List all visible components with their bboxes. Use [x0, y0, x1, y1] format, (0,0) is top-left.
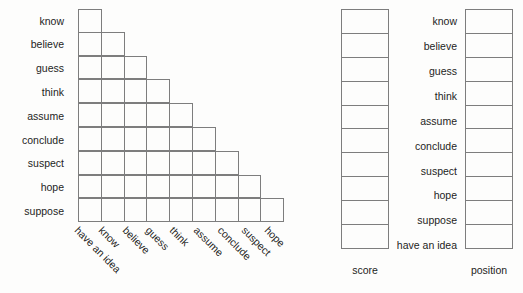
- matrix-cell[interactable]: [124, 175, 148, 199]
- word-list-item: think: [389, 84, 461, 109]
- matrix-row-label: think: [0, 80, 70, 104]
- word-list-item: hope: [389, 183, 461, 208]
- word-list-item: assume: [389, 109, 461, 134]
- matrix-cell[interactable]: [101, 127, 125, 151]
- matrix-row: [78, 199, 284, 223]
- matrix-row: [78, 9, 284, 33]
- word-list-item: believe: [389, 34, 461, 59]
- matrix-cell[interactable]: [192, 151, 216, 175]
- matrix-cell[interactable]: [192, 175, 216, 199]
- score-column-caption: score: [341, 264, 389, 276]
- matrix-cell[interactable]: [101, 103, 125, 127]
- matrix-cell[interactable]: [169, 127, 193, 151]
- matrix-cell[interactable]: [78, 127, 102, 151]
- position-column-caption: position: [465, 264, 513, 276]
- position-cell[interactable]: [465, 81, 513, 106]
- matrix-cell[interactable]: [215, 175, 239, 199]
- score-cell[interactable]: [341, 9, 389, 34]
- matrix-row: [78, 33, 284, 57]
- score-cell[interactable]: [341, 224, 389, 249]
- matrix-cell[interactable]: [238, 198, 262, 222]
- matrix-cell[interactable]: [101, 151, 125, 175]
- matrix-cell[interactable]: [124, 56, 148, 80]
- word-list-column: know believe guess think assume conclude…: [389, 9, 461, 258]
- position-cell[interactable]: [465, 224, 513, 249]
- position-cell[interactable]: [465, 152, 513, 177]
- matrix-cell[interactable]: [146, 79, 170, 103]
- matrix-cell[interactable]: [101, 198, 125, 222]
- matrix-cell[interactable]: [146, 151, 170, 175]
- score-cell[interactable]: [341, 152, 389, 177]
- matrix-cell[interactable]: [238, 175, 262, 199]
- matrix-cell[interactable]: [78, 175, 102, 199]
- position-cell[interactable]: [465, 9, 513, 34]
- matrix-cell[interactable]: [192, 198, 216, 222]
- matrix-cell[interactable]: [169, 175, 193, 199]
- matrix-cell[interactable]: [215, 151, 239, 175]
- score-cell[interactable]: [341, 200, 389, 225]
- matrix-row-label: guess: [0, 57, 70, 81]
- matrix-row: [78, 152, 284, 176]
- matrix-column-label: think: [168, 224, 192, 248]
- triangular-matrix-panel: know believe guess think assume conclude…: [0, 0, 330, 293]
- matrix-row: [78, 57, 284, 81]
- matrix-cell[interactable]: [124, 103, 148, 127]
- matrix-cell[interactable]: [78, 32, 102, 56]
- figure-canvas: know believe guess think assume conclude…: [0, 0, 523, 293]
- matrix-column-label-axis: have an ideaknowbelieveguessthinkassumec…: [78, 224, 328, 293]
- matrix-row: [78, 80, 284, 104]
- matrix-cell[interactable]: [192, 127, 216, 151]
- score-position-panel: know believe guess think assume conclude…: [330, 0, 523, 293]
- position-cell[interactable]: [465, 200, 513, 225]
- matrix-row-label: know: [0, 9, 70, 33]
- matrix-cell[interactable]: [146, 198, 170, 222]
- matrix-row-label: hope: [0, 176, 70, 200]
- position-cell[interactable]: [465, 57, 513, 82]
- matrix-cell[interactable]: [101, 79, 125, 103]
- matrix-cell[interactable]: [78, 198, 102, 222]
- matrix-cell[interactable]: [169, 103, 193, 127]
- position-column-grid: [465, 9, 513, 249]
- matrix-row: [78, 128, 284, 152]
- matrix-cell[interactable]: [101, 32, 125, 56]
- matrix-cell[interactable]: [78, 56, 102, 80]
- score-cell[interactable]: [341, 33, 389, 58]
- matrix-cell[interactable]: [146, 103, 170, 127]
- matrix-row-label: conclude: [0, 128, 70, 152]
- score-cell[interactable]: [341, 128, 389, 153]
- matrix-cell[interactable]: [260, 198, 284, 222]
- score-column-grid: [341, 9, 389, 249]
- score-cell[interactable]: [341, 57, 389, 82]
- word-list-item: know: [389, 9, 461, 34]
- matrix-cell[interactable]: [101, 56, 125, 80]
- matrix-cell[interactable]: [124, 151, 148, 175]
- matrix-row: [78, 176, 284, 200]
- matrix-row-label: suspect: [0, 152, 70, 176]
- matrix-cell[interactable]: [78, 9, 102, 33]
- position-cell[interactable]: [465, 105, 513, 130]
- word-list-item: have an idea: [389, 233, 461, 258]
- matrix-cell[interactable]: [124, 198, 148, 222]
- score-cell[interactable]: [341, 176, 389, 201]
- matrix-cell[interactable]: [169, 151, 193, 175]
- matrix-row-label: suppose: [0, 199, 70, 223]
- matrix-row-label: assume: [0, 104, 70, 128]
- matrix-cell[interactable]: [101, 175, 125, 199]
- matrix-cell[interactable]: [146, 127, 170, 151]
- word-list-item: suppose: [389, 208, 461, 233]
- matrix-cell[interactable]: [124, 79, 148, 103]
- matrix-cell[interactable]: [146, 175, 170, 199]
- matrix-cell[interactable]: [78, 151, 102, 175]
- score-cell[interactable]: [341, 81, 389, 106]
- matrix-cell[interactable]: [78, 79, 102, 103]
- matrix-cell[interactable]: [124, 127, 148, 151]
- matrix-cell[interactable]: [169, 198, 193, 222]
- position-cell[interactable]: [465, 128, 513, 153]
- matrix-row-label: believe: [0, 33, 70, 57]
- position-cell[interactable]: [465, 33, 513, 58]
- matrix-cell[interactable]: [215, 198, 239, 222]
- matrix-cell[interactable]: [78, 103, 102, 127]
- score-cell[interactable]: [341, 105, 389, 130]
- position-cell[interactable]: [465, 176, 513, 201]
- matrix-row: [78, 104, 284, 128]
